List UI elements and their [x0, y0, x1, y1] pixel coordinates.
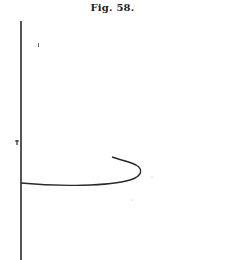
speck: [131, 199, 132, 200]
hook-curve: [21, 157, 141, 185]
speck: [151, 176, 152, 177]
axis-tick-mark: [15, 140, 19, 145]
figure-diagram: [0, 0, 225, 260]
